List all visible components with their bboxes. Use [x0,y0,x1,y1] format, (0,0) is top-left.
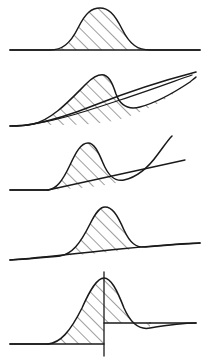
panel-curved-rising-baseline-peak [0,62,210,132]
panel-5-drawing [0,266,210,363]
panel-1-drawing [0,0,210,62]
panel-2-drawing [0,62,210,132]
panel-1-hatch-area [40,0,165,62]
panel-stepped-baseline-peak-with-drop-line [0,266,210,363]
panel-4-drawing [0,198,210,266]
panel-flat-baseline-peak [0,0,210,62]
panel-sloping-drift-baseline-peak [0,198,210,266]
panel-3-drawing [0,132,210,198]
peak-baseline-figure [0,0,210,363]
panel-rising-after-peak-baseline [0,132,210,198]
